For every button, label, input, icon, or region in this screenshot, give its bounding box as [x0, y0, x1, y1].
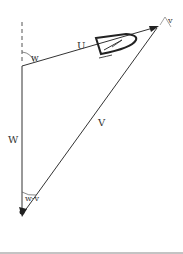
- label-w-minus-v: w-v: [25, 195, 39, 203]
- boat-icon: [96, 34, 136, 58]
- label-u: U: [77, 41, 85, 51]
- vector-v-line: [24, 28, 157, 212]
- label-v-angle: v: [168, 17, 173, 25]
- label-V: V: [98, 118, 105, 128]
- vector-diagram: [0, 0, 183, 254]
- arrow-tip-dot: [20, 210, 25, 215]
- label-w-angle: w: [31, 54, 39, 63]
- label-W: W: [8, 135, 18, 145]
- arrowhead-u-icon: [149, 26, 159, 32]
